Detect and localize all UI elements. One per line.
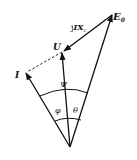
dashed-extension (27, 52, 62, 72)
jixc-label: jIXc (70, 22, 86, 33)
e0-phasor (70, 15, 112, 147)
psi-arc (40, 89, 88, 96)
jixc-phasor (64, 15, 112, 51)
u-label: U (53, 42, 62, 52)
phasor-diagram: E0 jIXc U I Ψ φ θ (0, 0, 137, 160)
theta-label: θ (73, 106, 78, 115)
i-label: I (14, 70, 20, 80)
psi-label: Ψ (60, 80, 68, 89)
u-phasor (62, 53, 70, 147)
phi-label: φ (55, 106, 61, 115)
e0-label: E0 (112, 11, 126, 23)
